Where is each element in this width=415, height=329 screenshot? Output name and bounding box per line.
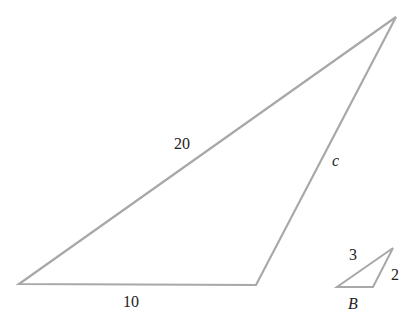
label-angle-b: B xyxy=(348,296,358,312)
triangles-figure xyxy=(0,0,415,329)
label-side-2: 2 xyxy=(391,267,399,283)
diagram-canvas: 20 10 c 3 2 B xyxy=(0,0,415,329)
label-side-3: 3 xyxy=(349,247,357,263)
label-side-20: 20 xyxy=(174,136,190,152)
large-triangle xyxy=(19,17,396,285)
label-side-c: c xyxy=(332,153,339,169)
small-triangle xyxy=(337,248,393,287)
label-side-10: 10 xyxy=(123,294,139,310)
